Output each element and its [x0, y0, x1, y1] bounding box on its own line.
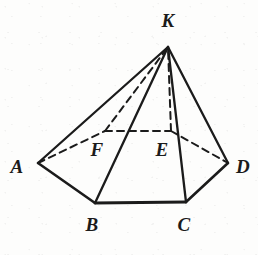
vertex-label-k: K: [161, 11, 174, 30]
vertex-label-a: A: [10, 157, 23, 176]
hidden-edge-f-k: [105, 47, 168, 131]
edge-c-d: [186, 163, 228, 202]
edge-b-k: [95, 47, 168, 203]
geometry-figure: KABCDFE: [0, 0, 258, 255]
vertex-label-c: C: [177, 215, 190, 234]
edge-b-c: [95, 202, 186, 203]
vertex-label-b: B: [85, 215, 98, 234]
edge-a-b: [38, 163, 95, 203]
vertex-label-d: D: [236, 157, 250, 176]
edges-layer: [38, 47, 228, 203]
vertex-label-e: E: [155, 140, 168, 159]
vertex-label-f: F: [90, 140, 103, 159]
pyramid-drawing: [0, 0, 258, 255]
